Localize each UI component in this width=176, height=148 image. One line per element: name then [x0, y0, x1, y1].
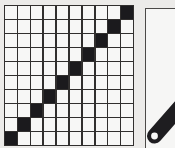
- grid-cell-empty: [18, 90, 30, 103]
- bar-detail-panel: [145, 8, 175, 148]
- grid-cell-empty: [108, 132, 120, 145]
- grid-cell-filled: [70, 62, 82, 75]
- grid-cell-empty: [121, 90, 133, 103]
- grid-cell-empty: [83, 20, 95, 33]
- grid-cell-filled: [31, 104, 43, 117]
- grid-cell-empty: [57, 104, 69, 117]
- grid-cell-empty: [18, 34, 30, 47]
- pivot-hole-icon: [151, 133, 158, 140]
- grid-cell-empty: [18, 20, 30, 33]
- grid-cell-empty: [83, 6, 95, 19]
- grid-cell-empty: [121, 104, 133, 117]
- grid-cell-filled: [83, 48, 95, 61]
- grid-cell-empty: [121, 34, 133, 47]
- grid-cell-empty: [70, 20, 82, 33]
- grid-cell-empty: [96, 6, 108, 19]
- grid-cell-empty: [44, 76, 56, 89]
- grid-cell-empty: [31, 132, 43, 145]
- grid-cell-empty: [121, 48, 133, 61]
- grid-cell-empty: [70, 34, 82, 47]
- grid-cell-empty: [121, 76, 133, 89]
- grid-cell-empty: [31, 62, 43, 75]
- grid-cell-empty: [108, 118, 120, 131]
- grid-panel: [4, 5, 134, 146]
- diagonal-bar-graphic: [146, 9, 175, 148]
- grid-cell-empty: [96, 118, 108, 131]
- grid-cell-empty: [5, 48, 17, 61]
- grid-cell-empty: [31, 90, 43, 103]
- grid-cell-empty: [44, 62, 56, 75]
- grid-cell-empty: [108, 6, 120, 19]
- grid-cell-empty: [96, 104, 108, 117]
- grid-cell-empty: [31, 34, 43, 47]
- grid-cell-empty: [96, 48, 108, 61]
- grid-cell-empty: [83, 104, 95, 117]
- grid-cell-filled: [121, 6, 133, 19]
- grid-cell-empty: [57, 34, 69, 47]
- grid-cell-empty: [57, 62, 69, 75]
- grid-cell-empty: [44, 34, 56, 47]
- grid-cell-empty: [5, 20, 17, 33]
- grid-cell-empty: [96, 90, 108, 103]
- grid-cell-empty: [5, 34, 17, 47]
- grid-cell-empty: [5, 6, 17, 19]
- grid-cell-empty: [83, 34, 95, 47]
- grid-cell-empty: [5, 76, 17, 89]
- grid-cell-empty: [121, 20, 133, 33]
- grid-cell-filled: [18, 118, 30, 131]
- grid-cell-empty: [31, 118, 43, 131]
- grid-cell-empty: [83, 118, 95, 131]
- grid-cell-empty: [5, 62, 17, 75]
- grid-cell-empty: [96, 20, 108, 33]
- grid-cell-empty: [108, 104, 120, 117]
- grid-cell-empty: [31, 20, 43, 33]
- grid-cell-filled: [108, 20, 120, 33]
- grid-cell-empty: [31, 6, 43, 19]
- grid-cell-empty: [96, 76, 108, 89]
- grid-cell-filled: [96, 34, 108, 47]
- grid-cell-empty: [5, 90, 17, 103]
- grid-cell-empty: [44, 20, 56, 33]
- grid-cell-empty: [70, 104, 82, 117]
- grid-cell-empty: [70, 76, 82, 89]
- grid-cell-empty: [5, 104, 17, 117]
- grid-cell-empty: [108, 90, 120, 103]
- grid-cell-empty: [31, 48, 43, 61]
- grid-cell-empty: [18, 76, 30, 89]
- grid-cell-empty: [57, 6, 69, 19]
- grid-cell-empty: [57, 118, 69, 131]
- grid-cell-empty: [108, 48, 120, 61]
- grid-cell-empty: [5, 118, 17, 131]
- grid-cell-empty: [31, 76, 43, 89]
- grid-cell-empty: [108, 34, 120, 47]
- grid-cell-empty: [121, 118, 133, 131]
- grid-cell-empty: [70, 48, 82, 61]
- grid-cell-empty: [44, 48, 56, 61]
- grid-cell-empty: [121, 62, 133, 75]
- grid-cell-empty: [83, 132, 95, 145]
- grid-cell-filled: [5, 132, 17, 145]
- grid-cell-empty: [70, 132, 82, 145]
- grid-cell-empty: [121, 132, 133, 145]
- grid-cell-empty: [70, 6, 82, 19]
- figure-root: [0, 0, 175, 148]
- grid-cell-empty: [108, 62, 120, 75]
- grid-cell-empty: [44, 104, 56, 117]
- grid-cell-empty: [70, 90, 82, 103]
- grid-cell-empty: [57, 48, 69, 61]
- grid-cell-empty: [44, 118, 56, 131]
- grid-cell-empty: [18, 62, 30, 75]
- grid-cell-empty: [18, 6, 30, 19]
- grid-cell-empty: [96, 132, 108, 145]
- grid-cell-empty: [83, 62, 95, 75]
- grid-cell-empty: [18, 104, 30, 117]
- grid-cell-filled: [57, 76, 69, 89]
- grid-cell-empty: [70, 118, 82, 131]
- diagonal-grid: [4, 5, 134, 146]
- grid-cell-empty: [57, 20, 69, 33]
- grid-cell-empty: [44, 132, 56, 145]
- grid-cell-empty: [44, 6, 56, 19]
- bar-shape: [155, 91, 176, 136]
- grid-cell-empty: [83, 90, 95, 103]
- grid-cell-empty: [18, 132, 30, 145]
